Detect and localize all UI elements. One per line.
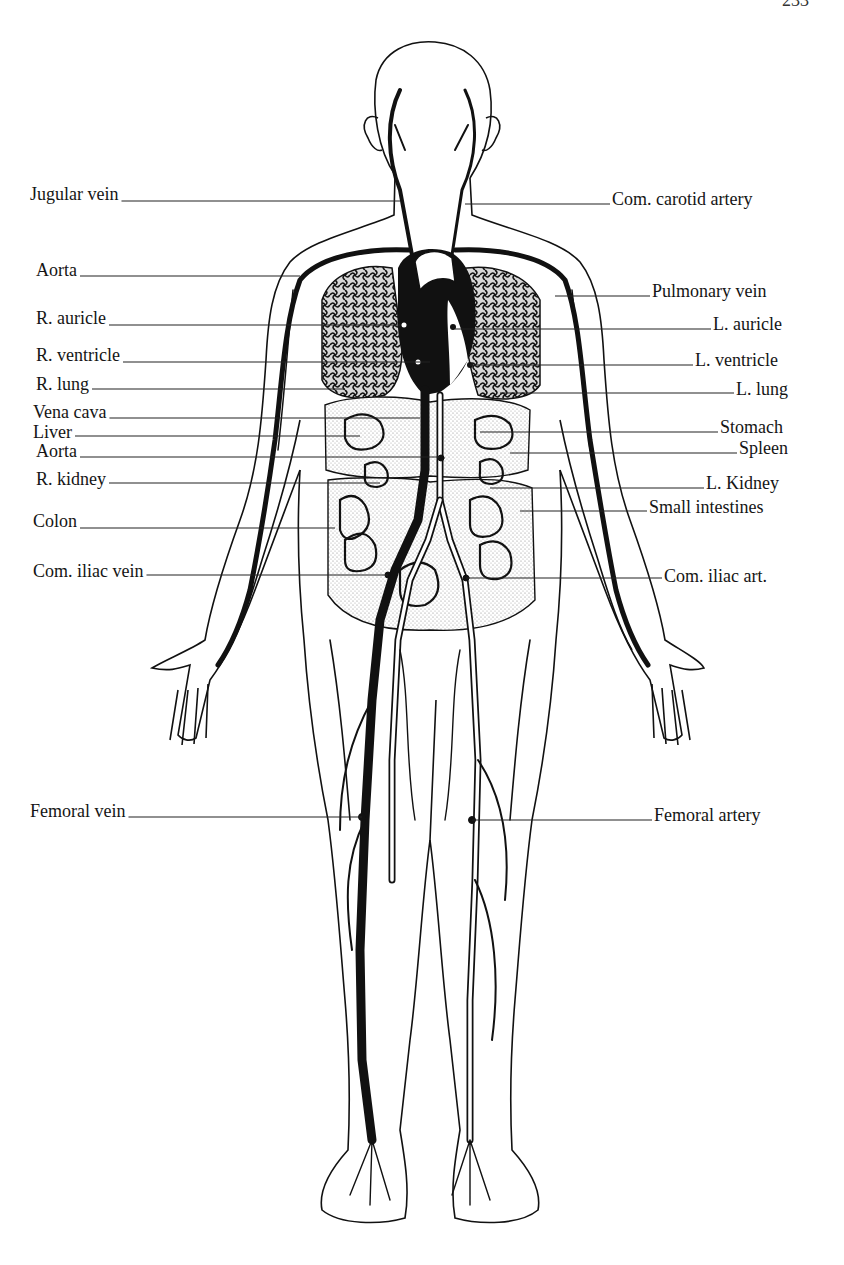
label-r-ventricle: R. ventricle [36, 345, 120, 365]
label-r-lung: R. lung [36, 374, 89, 394]
heart [397, 249, 475, 395]
label-com-carotid-artery: Com. carotid artery [612, 189, 752, 209]
label-l-auricle: L. auricle [713, 314, 782, 334]
label-liver: Liver [33, 422, 72, 442]
label-vena-cava: Vena cava [33, 402, 106, 422]
page-number: 233 [782, 0, 809, 11]
label-com-iliac-art: Com. iliac art. [664, 566, 767, 586]
label-l-ventricle: L. ventricle [695, 350, 778, 370]
label-aorta-upper: Aorta [36, 260, 77, 280]
label-r-auricle: R. auricle [36, 308, 106, 328]
intestines-region [328, 478, 535, 631]
label-femoral-vein: Femoral vein [30, 801, 125, 821]
label-colon: Colon [33, 511, 77, 531]
label-jugular-vein: Jugular vein [30, 184, 118, 204]
label-pulmonary-vein: Pulmonary vein [652, 281, 767, 301]
label-r-kidney: R. kidney [36, 469, 106, 489]
label-l-lung: L. lung [736, 379, 788, 399]
label-com-iliac-vein: Com. iliac vein [33, 561, 143, 581]
label-small-intestines: Small intestines [649, 497, 764, 517]
label-l-kidney: L. Kidney [706, 473, 779, 493]
label-spleen: Spleen [739, 438, 788, 458]
label-stomach: Stomach [720, 417, 783, 437]
right-lung [322, 267, 402, 399]
label-femoral-artery: Femoral artery [654, 805, 760, 825]
label-aorta-lower: Aorta [36, 441, 77, 461]
